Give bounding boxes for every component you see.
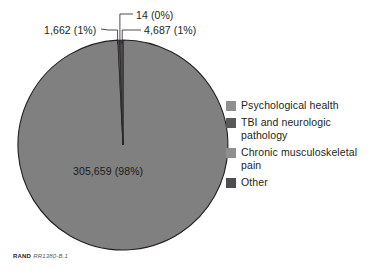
legend-item-psychological-health: Psychological health bbox=[226, 99, 378, 112]
pie-label-chronic-musculoskeletal: 14 (0%) bbox=[136, 9, 173, 21]
legend-swatch-icon bbox=[226, 118, 236, 128]
pie-chart-figure: 14 (0%) 1,662 (1%) 4,687 (1%) 305,659 (9… bbox=[0, 0, 378, 274]
legend-label: Psychological health bbox=[241, 99, 339, 112]
legend-swatch-icon bbox=[226, 178, 236, 188]
legend-item-tbi-neurologic: TBI and neurologic pathology bbox=[226, 116, 378, 142]
legend-item-chronic-musculoskeletal: Chronic musculoskeletal pain bbox=[226, 146, 378, 172]
legend-label: Chronic musculoskeletal pain bbox=[241, 146, 378, 172]
legend-label: Other bbox=[241, 176, 268, 189]
callout-leader-lines bbox=[101, 14, 141, 44]
chart-legend: Psychological health TBI and neurologic … bbox=[226, 99, 378, 193]
rand-brand-label: RAND bbox=[13, 253, 31, 259]
legend-swatch-icon bbox=[226, 101, 236, 111]
pie-label-psychological-health: 305,659 (98%) bbox=[73, 165, 143, 177]
pie-label-other: 4,687 (1%) bbox=[144, 24, 196, 36]
legend-item-other: Other bbox=[226, 176, 378, 189]
report-id-label: RR1380-B.1 bbox=[33, 253, 68, 259]
legend-swatch-icon bbox=[226, 148, 236, 158]
legend-label: TBI and neurologic pathology bbox=[241, 116, 378, 142]
figure-footer: RANDRR1380-B.1 bbox=[13, 253, 68, 259]
pie-label-tbi-neurologic: 1,662 (1%) bbox=[44, 24, 96, 36]
